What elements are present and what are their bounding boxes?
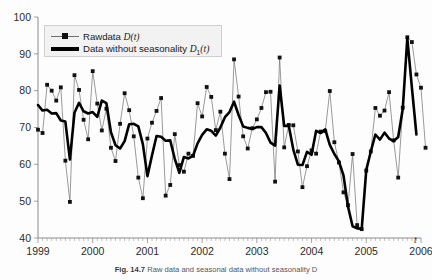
raw-data-point <box>282 145 286 149</box>
raw-data-point <box>159 96 163 100</box>
raw-data-point <box>82 118 86 122</box>
caption-text: Raw data and seasonal data without seaso… <box>147 265 317 274</box>
raw-data-point <box>383 109 387 113</box>
legend-label-rawdata: Rawdata D(t) <box>83 31 140 42</box>
raw-data-point <box>146 137 150 141</box>
raw-data-point <box>396 176 400 180</box>
raw-data-point <box>246 147 250 151</box>
figure-container: 4050607080901001999200020012002200320042… <box>0 0 432 280</box>
raw-data-point <box>59 85 63 89</box>
raw-data-point <box>410 40 414 44</box>
x-axis-tick-label: 2001 <box>136 245 160 257</box>
legend-label-deseasonalized: Data without seasonality D1(t) <box>83 43 209 56</box>
raw-data-point <box>168 183 172 187</box>
raw-data-point <box>114 159 118 163</box>
y-axis-tick-label: 80 <box>19 84 31 96</box>
raw-data-point <box>127 108 131 112</box>
raw-data-point <box>196 101 200 105</box>
raw-data-point <box>351 152 355 156</box>
raw-data-point <box>136 176 140 180</box>
deseasonalized-line <box>38 38 416 229</box>
y-axis-tick-label: 100 <box>13 11 31 23</box>
raw-data-point <box>63 159 67 163</box>
raw-data-point <box>291 123 295 127</box>
raw-data-line <box>38 37 426 229</box>
raw-data-point <box>73 73 77 77</box>
raw-data-point <box>155 109 159 113</box>
raw-data-point <box>91 69 95 73</box>
raw-data-point <box>260 106 264 110</box>
raw-data-point <box>328 89 332 93</box>
raw-data-point <box>241 134 245 138</box>
legend-swatch-rawdata-icon <box>51 30 79 42</box>
raw-data-point <box>278 56 282 60</box>
raw-data-point <box>419 86 423 90</box>
raw-data-point <box>36 128 40 132</box>
y-axis-tick-label: 90 <box>19 48 31 60</box>
raw-data-point <box>86 137 90 141</box>
y-axis-tick-label: 60 <box>19 158 31 170</box>
raw-data-point <box>95 102 99 106</box>
raw-data-point <box>223 152 227 156</box>
raw-data-point <box>187 152 191 156</box>
raw-data-point <box>50 89 54 93</box>
figure-caption: Fig. 14.7 Raw data and seasonal data wit… <box>0 265 432 274</box>
raw-data-point <box>228 177 232 181</box>
raw-data-point <box>237 95 241 99</box>
raw-data-point <box>141 196 145 200</box>
y-axis-tick-label: 70 <box>19 121 31 133</box>
raw-data-point <box>182 170 186 174</box>
raw-data-point <box>269 90 273 94</box>
raw-data-point <box>100 129 104 133</box>
raw-data-point <box>209 95 213 99</box>
raw-data-point <box>68 200 72 204</box>
raw-data-point <box>54 99 58 103</box>
caption-number: Fig. 14.7 <box>115 265 145 274</box>
raw-data-point <box>264 90 268 94</box>
raw-data-point <box>232 57 236 61</box>
raw-data-point <box>378 114 382 118</box>
raw-data-point <box>305 164 309 168</box>
chart-legend: Rawdata D(t) Data without seasonality D1… <box>44 25 222 57</box>
raw-data-point <box>45 83 49 87</box>
raw-data-point <box>218 110 222 114</box>
legend-item-deseasonalized: Data without seasonality D1(t) <box>51 42 209 56</box>
legend-item-rawdata: Rawdata D(t) <box>51 29 140 43</box>
raw-data-point <box>273 180 277 184</box>
raw-data-point <box>164 194 168 198</box>
raw-data-point <box>255 118 259 122</box>
raw-data-point <box>332 140 336 144</box>
raw-data-point <box>118 122 122 126</box>
series-group <box>36 35 427 231</box>
raw-data-point <box>200 115 204 119</box>
y-axis-tick-label: 50 <box>19 195 31 207</box>
raw-data-point <box>109 146 113 150</box>
raw-data-point <box>173 132 177 136</box>
x-axis-tick-label: 2003 <box>245 245 269 257</box>
x-axis-tick-label: 1999 <box>26 245 50 257</box>
x-axis-tick-label: 2002 <box>190 245 214 257</box>
raw-data-point <box>387 90 391 94</box>
raw-data-point <box>77 88 81 92</box>
legend-swatch-deseasonalized-icon <box>51 43 79 55</box>
x-axis-tick-label: 2005 <box>355 245 379 257</box>
raw-data-point <box>424 146 428 150</box>
x-axis-name-label: t <box>414 235 417 245</box>
y-axis-tick-label: 40 <box>19 232 31 244</box>
raw-data-point <box>373 106 377 110</box>
raw-data-point <box>132 134 136 138</box>
raw-data-point <box>205 85 209 89</box>
x-axis-tick-label: 2004 <box>300 245 324 257</box>
raw-data-point <box>150 121 154 125</box>
raw-data-point <box>314 152 318 156</box>
raw-data-point <box>41 131 45 135</box>
x-axis-tick-label: 2000 <box>81 245 105 257</box>
raw-data-point <box>301 185 305 189</box>
raw-data-point <box>296 150 300 154</box>
raw-data-point <box>123 91 127 95</box>
raw-data-point <box>415 73 419 77</box>
x-axis-tick-label: 2006 <box>409 245 432 257</box>
